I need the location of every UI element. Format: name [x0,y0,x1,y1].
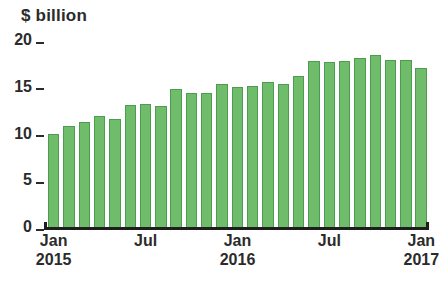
bar-slot [153,40,168,227]
bar [232,87,243,227]
bar-slot [276,40,291,227]
bar [186,93,197,227]
bar-slot [230,40,245,227]
x-axis-tick-label: Jul [116,232,176,251]
bar-slot [184,40,199,227]
bar [63,126,74,227]
bar-slot [306,40,321,227]
bar [109,119,120,227]
y-axis-tick: 10 [14,126,44,142]
bar-slot [291,40,306,227]
bar [339,61,350,227]
x-axis-line [44,227,429,230]
bar [308,61,319,227]
y-axis-tick-mark [36,229,44,231]
x-axis-right-cap [426,222,429,230]
bar-slot [77,40,92,227]
bar-slot [337,40,352,227]
bar [354,58,365,227]
bar [140,104,151,227]
bar [48,134,59,228]
bar [79,122,90,227]
x-axis-labels: Jan2015JulJan2016JulJan2017 [0,232,431,281]
bar [262,82,273,227]
bar [155,106,166,227]
bar-slot [199,40,214,227]
bar-slot [61,40,76,227]
bar-slot [414,40,429,227]
bar [324,62,335,227]
x-axis-left-cap [44,222,47,230]
y-axis-tick-mark [36,182,44,184]
x-axis-tick-label: Jul [299,232,359,251]
x-axis-tick-label: Jan2015 [24,232,84,270]
bar [94,116,105,227]
bar [125,105,136,227]
bar [385,60,396,227]
x-axis-month-label: Jul [116,232,176,251]
bar-slot [92,40,107,227]
x-axis-month-label: Jul [299,232,359,251]
bar-slot [245,40,260,227]
y-axis-tick-label: 20 [14,32,32,48]
x-axis-tick-label: Jan2017 [391,232,444,270]
y-axis-tick-mark [36,135,44,137]
bar [370,55,381,227]
bar-slot [214,40,229,227]
bar-slot [260,40,275,227]
x-axis-month-label: Jan [208,232,268,251]
bar-slot [383,40,398,227]
bar [216,84,227,227]
bar [293,76,304,227]
bar [415,68,426,227]
bar-slot [398,40,413,227]
y-axis-tick-mark [36,42,44,44]
y-axis-tick-label: 10 [14,126,32,142]
x-axis-tick-label: Jan2016 [208,232,268,270]
bar-slot [46,40,61,227]
y-axis-tick-label: 15 [14,79,32,95]
bars-container [46,40,429,227]
x-axis-month-label: Jan [24,232,84,251]
bar-slot [368,40,383,227]
bar [400,60,411,227]
bar [247,86,258,227]
bar-slot [322,40,337,227]
y-axis-tick-label: 5 [23,172,32,188]
y-axis-tick: 5 [23,172,44,188]
x-axis-year-label: 2016 [208,251,268,270]
x-axis-year-label: 2017 [391,251,444,270]
x-axis-month-label: Jan [391,232,444,251]
y-axis-tick: 20 [14,32,44,48]
bar-slot [169,40,184,227]
bar-slot [107,40,122,227]
bar [170,89,181,227]
y-axis-tick-mark [36,88,44,90]
y-axis-tick: 15 [14,79,44,95]
bar-slot [352,40,367,227]
x-axis-year-label: 2015 [24,251,84,270]
bar-slot [123,40,138,227]
bar [278,84,289,227]
bar-slot [138,40,153,227]
bar [201,93,212,227]
